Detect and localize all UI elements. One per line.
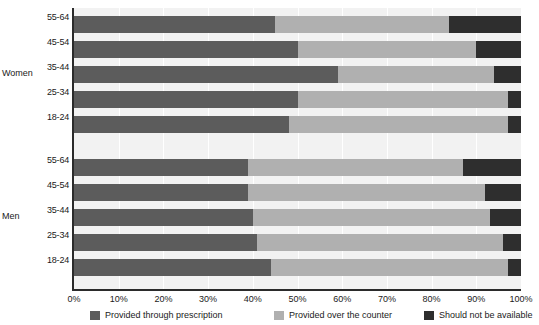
bar-segment-prescription — [74, 259, 271, 276]
x-axis-tick-label: 80% — [412, 293, 452, 305]
gridline — [521, 8, 522, 290]
bar-segment-counter — [248, 159, 463, 176]
bar-segment-counter — [271, 259, 508, 276]
bar-segment-prescription — [74, 91, 298, 108]
plot-area — [74, 8, 521, 290]
bar-segment-counter — [289, 116, 508, 133]
bar-segment-prescription — [74, 16, 275, 33]
y-axis-group-label: Men — [2, 211, 34, 221]
bar-row — [74, 209, 521, 226]
bar-segment-counter — [298, 41, 477, 58]
bar-segment-unavailable — [490, 209, 521, 226]
bar-segment-counter — [338, 66, 494, 83]
bar-segment-prescription — [74, 234, 257, 251]
x-axis-tick-label: 70% — [367, 293, 407, 305]
legend-swatch-counter — [274, 311, 284, 320]
legend-swatch-prescription — [90, 311, 100, 320]
y-axis-group-label: Women — [2, 68, 34, 78]
legend-swatch-unavailable — [424, 311, 434, 320]
bar-segment-prescription — [74, 159, 248, 176]
y-axis-age-label: 18-24 — [39, 255, 69, 265]
y-axis-age-label: 25-34 — [39, 87, 69, 97]
chart-legend: Provided through prescriptionProvided ov… — [74, 309, 534, 323]
bar-segment-prescription — [74, 41, 298, 58]
x-axis-tick-label: 40% — [233, 293, 273, 305]
bar-segment-unavailable — [485, 184, 521, 201]
y-axis-age-label: 35-44 — [39, 205, 69, 215]
x-axis-tick-label: 10% — [99, 293, 139, 305]
bar-segment-prescription — [74, 184, 248, 201]
bar-segment-unavailable — [463, 159, 521, 176]
x-axis-tick-labels: 0%10%20%30%40%50%60%70%80%90%100% — [0, 293, 539, 307]
bar-segment-unavailable — [503, 234, 521, 251]
bar-segment-prescription — [74, 116, 289, 133]
bar-segment-counter — [257, 234, 503, 251]
bar-row — [74, 16, 521, 33]
stacked-bar-chart: 55-6445-5435-4425-3418-2455-6445-5435-44… — [0, 0, 539, 325]
bar-segment-counter — [275, 16, 449, 33]
y-axis-line — [72, 8, 74, 290]
bar-row — [74, 66, 521, 83]
bar-segment-counter — [298, 91, 508, 108]
y-axis-age-label: 45-54 — [39, 37, 69, 47]
legend-label: Provided over the counter — [289, 310, 392, 321]
x-axis-line — [72, 289, 521, 291]
bar-row — [74, 116, 521, 133]
x-axis-tick-label: 50% — [278, 293, 318, 305]
bar-segment-prescription — [74, 209, 253, 226]
bar-segment-counter — [248, 184, 485, 201]
bar-row — [74, 91, 521, 108]
y-axis-age-labels: 55-6445-5435-4425-3418-2455-6445-5435-44… — [33, 0, 69, 325]
legend-label: Should not be available — [439, 310, 533, 321]
bar-segment-unavailable — [494, 66, 521, 83]
bar-row — [74, 159, 521, 176]
y-axis-age-label: 18-24 — [39, 112, 69, 122]
y-axis-age-label: 45-54 — [39, 180, 69, 190]
y-axis-age-label: 35-44 — [39, 62, 69, 72]
bar-segment-unavailable — [476, 41, 521, 58]
bar-row — [74, 234, 521, 251]
legend-item[interactable]: Provided over the counter — [274, 309, 392, 322]
bar-segment-counter — [253, 209, 490, 226]
legend-item[interactable]: Should not be available — [424, 309, 533, 322]
bar-segment-unavailable — [508, 91, 521, 108]
legend-item[interactable]: Provided through prescription — [90, 309, 223, 322]
y-axis-age-label: 55-64 — [39, 12, 69, 22]
bar-segment-unavailable — [449, 16, 521, 33]
bar-row — [74, 259, 521, 276]
bar-segment-unavailable — [508, 116, 521, 133]
bar-row — [74, 184, 521, 201]
x-axis-tick-label: 60% — [322, 293, 362, 305]
x-axis-tick-label: 0% — [54, 293, 94, 305]
x-axis-tick-label: 30% — [188, 293, 228, 305]
y-axis-age-label: 55-64 — [39, 155, 69, 165]
y-axis-age-label: 25-34 — [39, 230, 69, 240]
x-axis-tick-label: 90% — [456, 293, 496, 305]
legend-label: Provided through prescription — [105, 310, 223, 321]
x-axis-tick-label: 20% — [143, 293, 183, 305]
bar-segment-prescription — [74, 66, 338, 83]
x-axis-tick-label: 100% — [501, 293, 539, 305]
bar-row — [74, 41, 521, 58]
bar-segment-unavailable — [508, 259, 521, 276]
